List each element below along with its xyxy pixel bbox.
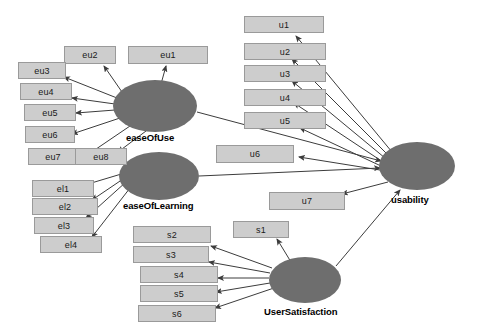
indicator-box-eu8[interactable]: eu8 [75, 148, 127, 165]
measurement-edge-easeOfUse-to-eu6 [72, 118, 120, 134]
indicator-box-el4[interactable]: el4 [40, 236, 102, 253]
indicator-box-eu5[interactable]: eu5 [24, 104, 76, 121]
indicator-box-s1[interactable]: s1 [233, 221, 289, 238]
sem-diagram-canvas: easeOfUseeaseOfLearningusabilityUserSati… [0, 0, 479, 335]
indicator-box-eu7[interactable]: eu7 [28, 148, 78, 165]
indicator-box-eu2[interactable]: eu2 [64, 46, 116, 64]
structural-edge-easeOfLearning-to-usability [199, 168, 380, 176]
indicator-box-u5[interactable]: u5 [244, 112, 326, 129]
structural-edges [197, 112, 400, 266]
indicator-box-el3[interactable]: el3 [34, 217, 94, 234]
indicator-box-eu4[interactable]: eu4 [20, 83, 72, 100]
measurement-edge-easeOfUse-to-eu5 [76, 110, 115, 113]
measurement-edge-UserSatisfaction-to-s5 [216, 283, 270, 292]
indicator-box-el2[interactable]: el2 [32, 198, 98, 215]
latent-node-easeOfUse[interactable] [113, 80, 197, 132]
latent-node-easeOfLearning[interactable] [119, 152, 199, 200]
latent-node-UserSatisfaction[interactable] [269, 257, 341, 303]
indicator-box-s3[interactable]: s3 [133, 246, 209, 263]
indicator-box-eu3[interactable]: eu3 [18, 62, 66, 79]
latent-label-UserSatisfaction: UserSatisfaction [264, 306, 337, 317]
measurement-edge-usability-to-u6 [299, 157, 380, 170]
indicator-box-s5[interactable]: s5 [140, 285, 218, 302]
measurement-edges [64, 36, 392, 308]
measurement-edge-UserSatisfaction-to-s2 [211, 246, 272, 268]
indicator-box-u4[interactable]: u4 [244, 89, 326, 106]
indicator-box-el1[interactable]: el1 [32, 180, 94, 197]
indicator-box-s6[interactable]: s6 [138, 305, 216, 322]
measurement-edge-UserSatisfaction-to-s3 [209, 262, 270, 273]
indicator-box-u6[interactable]: u6 [216, 145, 294, 163]
indicator-box-eu6[interactable]: eu6 [25, 126, 75, 143]
measurement-edge-usability-to-u5 [300, 128, 381, 166]
measurement-edge-easeOfUse-to-eu2 [104, 66, 122, 92]
indicator-box-u1[interactable]: u1 [244, 16, 324, 33]
indicator-box-s4[interactable]: s4 [140, 266, 218, 283]
indicator-box-s2[interactable]: s2 [133, 226, 211, 243]
measurement-edge-UserSatisfaction-to-s6 [215, 288, 274, 308]
indicator-box-u3[interactable]: u3 [244, 65, 326, 82]
indicator-box-u2[interactable]: u2 [244, 43, 326, 60]
latent-node-usability[interactable] [379, 142, 455, 190]
latent-label-usability: usability [391, 194, 429, 205]
indicator-box-eu1[interactable]: eu1 [128, 46, 208, 64]
measurement-edge-easeOfUse-to-eu4 [72, 98, 115, 104]
latent-label-easeOfLearning: easeOfLearning [123, 200, 193, 211]
measurement-edge-usability-to-u7 [342, 182, 388, 194]
latent-label-easeOfUse: easeOfUse [126, 132, 174, 143]
indicator-box-u7[interactable]: u7 [269, 192, 345, 210]
